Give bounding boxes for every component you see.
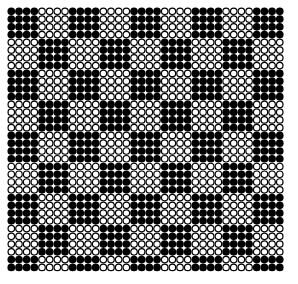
hollow-dot xyxy=(54,8,61,15)
hollow-dot xyxy=(16,233,23,240)
hollow-dot xyxy=(192,171,199,178)
hollow-dot xyxy=(100,155,107,162)
filled-dot xyxy=(146,217,154,225)
hollow-dot xyxy=(69,55,76,62)
filled-dot xyxy=(76,155,84,163)
hollow-dot xyxy=(207,117,214,124)
hollow-dot xyxy=(115,93,122,100)
hollow-dot xyxy=(123,8,130,15)
filled-dot xyxy=(138,139,146,147)
hollow-dot xyxy=(23,187,30,194)
hollow-dot xyxy=(230,264,237,271)
hollow-dot xyxy=(269,249,276,256)
hollow-dot xyxy=(92,225,99,232)
hollow-dot xyxy=(169,16,176,23)
filled-dot xyxy=(107,46,115,54)
hollow-dot xyxy=(85,187,92,194)
filled-dot xyxy=(261,194,269,202)
filled-dot xyxy=(7,85,15,93)
hollow-dot xyxy=(154,47,161,54)
hollow-dot xyxy=(192,47,199,54)
hollow-dot xyxy=(200,187,207,194)
hollow-dot xyxy=(238,70,245,77)
hollow-dot xyxy=(269,233,276,240)
filled-dot xyxy=(261,7,269,15)
hollow-dot xyxy=(253,187,260,194)
hollow-dot xyxy=(123,218,130,225)
filled-dot xyxy=(215,201,223,209)
filled-dot xyxy=(46,62,54,70)
filled-dot xyxy=(146,15,154,23)
hollow-dot xyxy=(31,249,38,256)
filled-dot xyxy=(153,70,161,78)
hollow-dot xyxy=(23,249,30,256)
hollow-dot xyxy=(100,16,107,23)
filled-dot xyxy=(138,93,146,101)
filled-dot xyxy=(115,225,123,233)
hollow-dot xyxy=(269,163,276,170)
hollow-dot xyxy=(192,117,199,124)
filled-dot xyxy=(184,225,192,233)
filled-dot xyxy=(115,38,123,46)
filled-dot xyxy=(61,46,69,54)
hollow-dot xyxy=(138,101,145,108)
filled-dot xyxy=(23,85,31,93)
hollow-dot xyxy=(246,140,253,147)
hollow-dot xyxy=(223,202,230,209)
filled-dot xyxy=(84,209,92,217)
hollow-dot xyxy=(69,39,76,46)
hollow-dot xyxy=(215,124,222,131)
filled-dot xyxy=(261,77,269,85)
filled-dot xyxy=(53,101,61,109)
filled-dot xyxy=(38,186,46,194)
hollow-dot xyxy=(207,39,214,46)
hollow-dot xyxy=(200,117,207,124)
hollow-dot xyxy=(154,249,161,256)
hollow-dot xyxy=(169,155,176,162)
hollow-dot xyxy=(46,31,53,38)
hollow-dot xyxy=(85,233,92,240)
filled-dot xyxy=(245,54,253,62)
hollow-dot xyxy=(261,233,268,240)
filled-dot xyxy=(61,38,69,46)
hollow-dot xyxy=(62,155,69,162)
filled-dot xyxy=(230,46,238,54)
hollow-dot xyxy=(269,187,276,194)
filled-dot xyxy=(23,139,31,147)
filled-dot xyxy=(107,101,115,109)
hollow-dot xyxy=(131,225,138,232)
hollow-dot xyxy=(115,78,122,85)
filled-dot xyxy=(169,170,177,178)
filled-dot xyxy=(115,62,123,70)
filled-dot xyxy=(7,147,15,155)
filled-dot xyxy=(61,108,69,116)
hollow-dot xyxy=(161,132,168,139)
filled-dot xyxy=(245,108,253,116)
filled-dot xyxy=(222,225,230,233)
hollow-dot xyxy=(46,24,53,31)
filled-dot xyxy=(268,201,276,209)
filled-dot xyxy=(153,155,161,163)
hollow-dot xyxy=(207,124,214,131)
filled-dot xyxy=(153,139,161,147)
hollow-dot xyxy=(238,24,245,31)
hollow-dot xyxy=(277,39,284,46)
filled-dot xyxy=(38,232,46,240)
filled-dot xyxy=(53,232,61,240)
hollow-dot xyxy=(123,140,130,147)
filled-dot xyxy=(130,155,138,163)
hollow-dot xyxy=(246,93,253,100)
hollow-dot xyxy=(16,171,23,178)
filled-dot xyxy=(261,31,269,39)
filled-dot xyxy=(76,77,84,85)
hollow-dot xyxy=(184,256,191,263)
filled-dot xyxy=(238,240,246,248)
hollow-dot xyxy=(85,62,92,69)
hollow-dot xyxy=(54,140,61,147)
filled-dot xyxy=(207,194,215,202)
filled-dot xyxy=(69,139,77,147)
hollow-dot xyxy=(16,101,23,108)
filled-dot xyxy=(130,194,138,202)
hollow-dot xyxy=(238,155,245,162)
hollow-dot xyxy=(230,202,237,209)
